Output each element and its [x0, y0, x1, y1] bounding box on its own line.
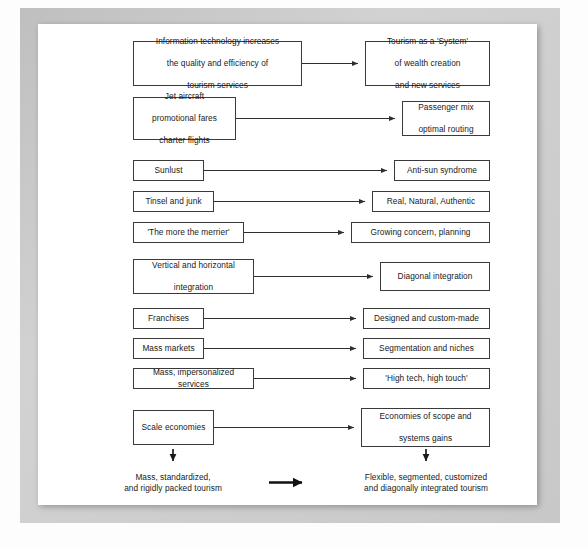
- node-line: 'High tech, high touch': [367, 373, 486, 384]
- node-line: Passenger mix: [406, 102, 486, 113]
- node-line: Mass, impersonalized services: [137, 367, 250, 389]
- node-segmentation-and-niches[interactable]: Segmentation and niches: [363, 338, 490, 359]
- node-vertical-horizontal-integration[interactable]: Vertical and horizontal integration: [133, 259, 254, 294]
- summary-left-caption: Mass, standardized, and rigidly packed t…: [93, 472, 253, 495]
- summary-line: and rigidly packed tourism: [124, 483, 222, 493]
- node-jet-aircraft[interactable]: Jet aircraft promotional fares charter f…: [133, 97, 236, 140]
- node-line: charter flights: [137, 135, 232, 146]
- flow-diagram: Information technology increases the qua…: [0, 0, 588, 547]
- node-line: Vertical and horizontal: [137, 260, 250, 271]
- node-line: integration: [137, 282, 250, 293]
- node-line: Anti-sun syndrome: [398, 165, 486, 176]
- node-growing-concern-planning[interactable]: Growing concern, planning: [351, 222, 490, 243]
- node-line: Segmentation and niches: [367, 343, 486, 354]
- node-economies-of-scope[interactable]: Economies of scope and systems gains: [361, 408, 490, 447]
- summary-line: and diagonally integrated tourism: [364, 483, 488, 493]
- node-designed-and-custom-made[interactable]: Designed and custom-made: [363, 308, 490, 329]
- node-scale-economies[interactable]: Scale economies: [133, 410, 214, 445]
- node-line: of wealth creation: [369, 58, 486, 69]
- node-diagonal-integration[interactable]: Diagonal integration: [380, 262, 490, 291]
- node-line: promotional fares: [137, 113, 232, 124]
- node-line: 'The more the merrier': [137, 227, 240, 238]
- node-sunlust[interactable]: Sunlust: [133, 160, 204, 181]
- node-line: Diagonal integration: [384, 271, 486, 282]
- screenshot-root: Information technology increases the qua…: [0, 0, 588, 547]
- node-line: Real, Natural, Authentic: [376, 196, 486, 207]
- node-anti-sun-syndrome[interactable]: Anti-sun syndrome: [394, 160, 490, 181]
- node-passenger-mix[interactable]: Passenger mix optimal routing: [402, 101, 490, 136]
- node-the-more-the-merrier[interactable]: 'The more the merrier': [133, 222, 244, 243]
- node-line: Economies of scope and: [365, 411, 486, 422]
- node-tinsel-and-junk[interactable]: Tinsel and junk: [133, 191, 214, 212]
- node-high-tech-high-touch[interactable]: 'High tech, high touch': [363, 368, 490, 389]
- node-mass-impersonalized-services[interactable]: Mass, impersonalized services: [133, 368, 254, 389]
- node-real-natural-authentic[interactable]: Real, Natural, Authentic: [372, 191, 490, 212]
- node-line: Franchises: [137, 313, 200, 324]
- node-line: Mass markets: [137, 343, 200, 354]
- node-franchises[interactable]: Franchises: [133, 308, 204, 329]
- node-line: Tinsel and junk: [137, 196, 210, 207]
- summary-line: Flexible, segmented, customized: [365, 472, 487, 482]
- node-line: and new services: [369, 80, 486, 91]
- summary-right-caption: Flexible, segmented, customized and diag…: [336, 472, 516, 495]
- node-information-technology[interactable]: Information technology increases the qua…: [133, 41, 302, 86]
- node-line: Jet aircraft: [137, 91, 232, 102]
- node-line: Scale economies: [137, 422, 210, 433]
- node-line: systems gains: [365, 433, 486, 444]
- node-line: Tourism as a 'System': [369, 36, 486, 47]
- node-line: the quality and efficiency of: [137, 58, 298, 69]
- node-tourism-as-a-system[interactable]: Tourism as a 'System' of wealth creation…: [365, 41, 490, 86]
- node-line: Designed and custom-made: [367, 313, 486, 324]
- node-line: Growing concern, planning: [355, 227, 486, 238]
- node-line: Information technology increases: [137, 36, 298, 47]
- node-line: optimal routing: [406, 124, 486, 135]
- node-line: Sunlust: [137, 165, 200, 176]
- summary-line: Mass, standardized,: [135, 472, 210, 482]
- node-mass-markets[interactable]: Mass markets: [133, 338, 204, 359]
